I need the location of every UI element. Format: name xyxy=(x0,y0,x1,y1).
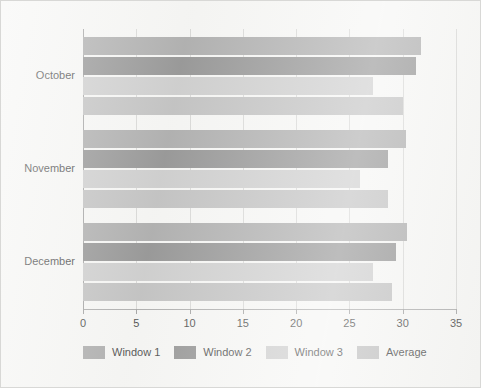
bar xyxy=(83,77,373,95)
x-tick-label: 10 xyxy=(183,317,195,329)
bar xyxy=(83,223,407,241)
y-axis-label-december: December xyxy=(24,255,75,267)
legend-swatch-icon xyxy=(357,346,379,359)
tick-mark-15 xyxy=(243,309,244,314)
legend-swatch-icon xyxy=(174,346,196,359)
bar xyxy=(83,190,388,208)
x-axis-line xyxy=(83,309,456,310)
bar-chart-figure: 05101520253035 OctoberNovemberDecember W… xyxy=(0,0,481,388)
x-tick-label: 20 xyxy=(290,317,302,329)
bar xyxy=(83,57,416,75)
legend-label: Window 2 xyxy=(203,346,251,358)
bar xyxy=(83,283,392,301)
plot-area: 05101520253035 xyxy=(83,29,456,309)
x-tick-label: 5 xyxy=(133,317,139,329)
legend-item[interactable]: Window 3 xyxy=(266,346,343,359)
tick-mark-0 xyxy=(83,309,84,314)
legend-label: Window 1 xyxy=(112,346,160,358)
legend-swatch-icon xyxy=(83,346,105,359)
bar xyxy=(83,170,360,188)
x-tick-label: 0 xyxy=(80,317,86,329)
tick-mark-20 xyxy=(296,309,297,314)
bar xyxy=(83,243,396,261)
y-axis-label-november: November xyxy=(24,162,75,174)
y-axis-category-labels: OctoberNovemberDecember xyxy=(1,29,75,309)
x-tick-label: 25 xyxy=(343,317,355,329)
x-tick-label: 15 xyxy=(237,317,249,329)
legend-item[interactable]: Average xyxy=(357,346,427,359)
bar xyxy=(83,263,373,281)
y-axis-label-october: October xyxy=(36,69,75,81)
legend-label: Average xyxy=(386,346,427,358)
x-tick-label: 35 xyxy=(450,317,462,329)
bar xyxy=(83,97,403,115)
tick-mark-30 xyxy=(403,309,404,314)
x-tick-label: 30 xyxy=(397,317,409,329)
bar xyxy=(83,150,388,168)
legend-swatch-icon xyxy=(266,346,288,359)
tick-mark-35 xyxy=(456,309,457,314)
gridline-35 xyxy=(456,29,457,309)
tick-mark-5 xyxy=(136,309,137,314)
legend-item[interactable]: Window 2 xyxy=(174,346,251,359)
bar xyxy=(83,130,406,148)
tick-mark-25 xyxy=(349,309,350,314)
legend-item[interactable]: Window 1 xyxy=(83,346,160,359)
legend-label: Window 3 xyxy=(295,346,343,358)
tick-mark-10 xyxy=(190,309,191,314)
chart-legend: Window 1Window 2Window 3Average xyxy=(83,342,456,362)
bar xyxy=(83,37,421,55)
